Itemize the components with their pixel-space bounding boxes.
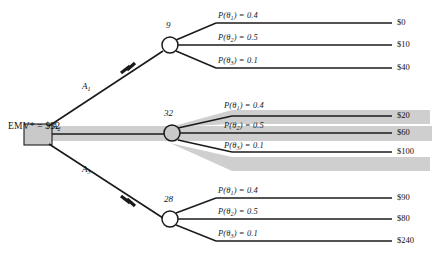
decision-tree-figure: EMV* = $32 A1 A2 A3 9 32 28 P(θ1) = 0.4 … — [0, 0, 438, 258]
chance-node-3-branches — [176, 198, 392, 241]
prob-label-a1-s3: P(θ3) = 0.1 — [218, 56, 258, 65]
chance-node-1 — [162, 37, 178, 53]
chance-node-3 — [162, 211, 178, 227]
node-value-1: 9 — [166, 21, 171, 30]
prob-label-a3-s2: P(θ2) = 0.5 — [218, 207, 258, 216]
node-value-2: 32 — [164, 109, 173, 118]
payoff-a2-s3: $100 — [397, 147, 414, 156]
prob-label-a2-s1: P(θ1) = 0.4 — [224, 101, 264, 110]
prob-label-a1-s2: P(θ2) = 0.5 — [218, 33, 258, 42]
payoff-a1-s3: $40 — [397, 63, 410, 72]
payoff-a2-s1: $20 — [397, 111, 410, 120]
payoff-a3-s2: $80 — [397, 214, 410, 223]
branch-a3 — [49, 144, 163, 218]
prune-mark-a3 — [121, 196, 135, 206]
prob-label-a2-s3: P(θ3) = 0.1 — [224, 141, 264, 150]
alternative-label-a2: A2 — [52, 122, 61, 131]
prob-label-a1-s1: P(θ1) = 0.4 — [218, 11, 258, 20]
prob-label-a2-s2: P(θ2) = 0.5 — [224, 121, 264, 130]
payoff-a3-s1: $90 — [397, 193, 410, 202]
node-value-3: 28 — [164, 195, 173, 204]
payoff-a1-s2: $10 — [397, 40, 410, 49]
alternative-label-a3: A3 — [82, 165, 91, 174]
chance-node-1-branches — [176, 23, 392, 68]
branch-a1 — [49, 51, 163, 126]
alternative-label-a1: A1 — [82, 82, 91, 91]
prob-label-a3-s1: P(θ1) = 0.4 — [218, 186, 258, 195]
payoff-a2-s2: $60 — [397, 128, 410, 137]
prob-label-a3-s3: P(θ3) = 0.1 — [218, 229, 258, 238]
payoff-a1-s1: $0 — [397, 18, 406, 27]
chance-node-2 — [164, 125, 180, 141]
payoff-a3-s3: $240 — [397, 236, 414, 245]
